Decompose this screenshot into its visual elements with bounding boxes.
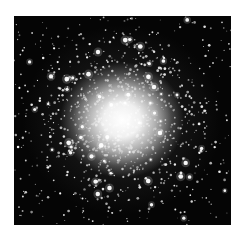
bright-stars (14, 16, 231, 225)
star-cluster-photo (14, 16, 231, 225)
image-frame (0, 0, 236, 231)
